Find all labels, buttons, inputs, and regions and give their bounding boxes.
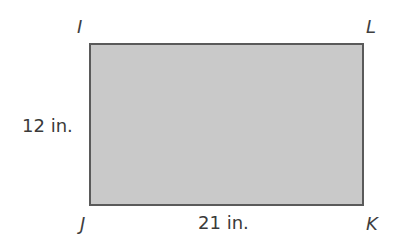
- rectangle-ijkl: [89, 43, 364, 206]
- vertex-label-i: I: [77, 18, 82, 36]
- width-dimension-label: 21 in.: [198, 214, 249, 232]
- vertex-label-k: K: [366, 215, 378, 233]
- height-dimension-label: 12 in.: [22, 117, 73, 135]
- vertex-label-j: J: [80, 215, 85, 233]
- vertex-label-l: L: [366, 18, 376, 36]
